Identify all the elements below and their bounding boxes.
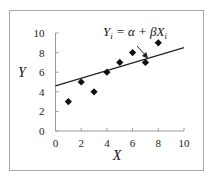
x-tick-label: 2 [78, 137, 84, 149]
y-tick-label: 6 [39, 66, 45, 78]
data-point-marker [90, 88, 97, 95]
x-tick-label: 10 [179, 137, 191, 149]
data-point-marker [65, 98, 72, 105]
y-tick-label: 4 [39, 86, 45, 98]
scatter-plot: 02468100246810 Yi = α + βXi X Y [0, 0, 213, 177]
axes [56, 33, 185, 131]
x-tick-label: 0 [53, 137, 59, 149]
regression-line [56, 48, 185, 86]
equation-label: Yi = α + βXi [103, 24, 168, 41]
data-point-marker [155, 39, 162, 46]
x-axis-title: X [112, 148, 122, 163]
data-point-marker [116, 59, 123, 66]
y-tick-label: 8 [39, 47, 45, 59]
data-point-marker [129, 49, 136, 56]
data-points [65, 39, 162, 105]
x-tick-label: 6 [130, 137, 136, 149]
y-tick-label: 0 [39, 125, 45, 137]
x-tick-label: 4 [104, 137, 110, 149]
y-tick-label: 2 [39, 105, 45, 117]
regression-line-path [56, 48, 185, 86]
x-tick-label: 8 [156, 137, 162, 149]
y-axis-title: Y [18, 65, 28, 80]
y-tick-label: 10 [34, 27, 46, 39]
